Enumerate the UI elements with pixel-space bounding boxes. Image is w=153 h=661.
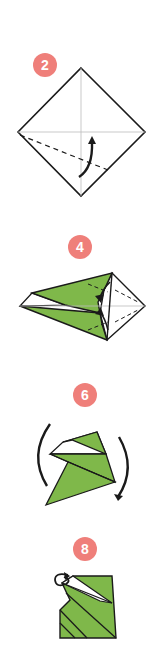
origami-diagram: 2 4 [0,0,153,661]
step-number: 2 [41,57,49,73]
folded-shape [60,576,116,638]
step-6: 6 [38,383,128,505]
folded-shape [46,432,115,505]
paper-square [18,68,145,196]
step-8: 8 [55,537,116,638]
step-4: 4 [20,235,145,340]
step-2: 2 [18,53,145,196]
kite-shape [20,273,145,340]
step-number: 6 [81,387,89,403]
step-number: 8 [81,541,89,557]
step-badge: 2 [33,53,57,77]
step-badge: 8 [73,537,97,561]
step-badge: 4 [68,235,92,259]
step-badge: 6 [73,383,97,407]
step-number: 4 [76,239,84,255]
